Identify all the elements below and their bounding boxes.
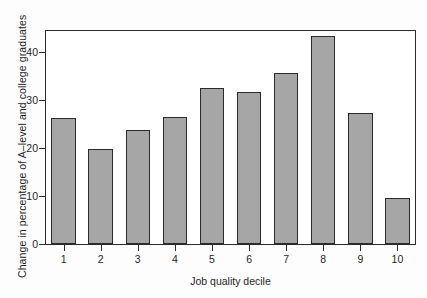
y-axis-tick-labels: 010203040 xyxy=(12,0,38,298)
x-tick-label: 1 xyxy=(45,254,82,265)
bar xyxy=(237,92,261,244)
bar xyxy=(274,73,298,244)
y-tick-label: 10 xyxy=(16,191,38,201)
x-tick-label: 6 xyxy=(231,254,268,265)
y-tick-label: 30 xyxy=(16,95,38,105)
bar xyxy=(51,118,75,244)
bar xyxy=(200,88,224,244)
bar xyxy=(88,149,112,244)
y-tick-label: 40 xyxy=(16,47,38,57)
y-tick-label: 0 xyxy=(16,239,38,249)
x-tick-label: 5 xyxy=(193,254,230,265)
x-tick-mark xyxy=(323,245,324,251)
x-tick-mark xyxy=(64,245,65,251)
x-tick-label: 8 xyxy=(305,254,342,265)
x-tick-label: 7 xyxy=(268,254,305,265)
x-tick-mark xyxy=(286,245,287,251)
bar xyxy=(126,130,150,244)
x-tick-mark xyxy=(249,245,250,251)
x-tick-label: 4 xyxy=(156,254,193,265)
x-tick-label: 10 xyxy=(379,254,416,265)
bar-chart-figure: Change in percentage of A–level and coll… xyxy=(0,0,427,298)
x-tick-mark xyxy=(175,245,176,251)
x-tick-label: 9 xyxy=(342,254,379,265)
bar-series xyxy=(45,30,416,244)
bar xyxy=(385,198,409,244)
bar xyxy=(348,113,372,244)
x-axis-label: Job quality decile xyxy=(45,275,416,287)
x-tick-label: 3 xyxy=(119,254,156,265)
x-tick-label: 2 xyxy=(82,254,119,265)
x-tick-mark xyxy=(138,245,139,251)
x-tick-mark xyxy=(212,245,213,251)
bar xyxy=(311,36,335,244)
x-tick-mark xyxy=(101,245,102,251)
x-tick-mark xyxy=(397,245,398,251)
x-tick-mark xyxy=(360,245,361,251)
bar xyxy=(163,117,187,244)
y-tick-label: 20 xyxy=(16,143,38,153)
